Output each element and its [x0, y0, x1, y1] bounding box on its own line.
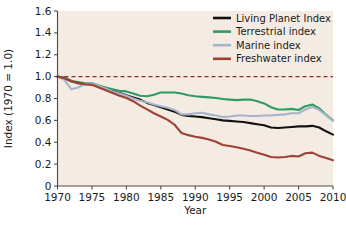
y-tick-label: 0.8 [35, 92, 52, 104]
legend-label-freshwater-index: Freshwater index [236, 53, 322, 64]
legend-label-terrestrial-index: Terrestrial index [235, 26, 316, 37]
x-tick-label: 1970 [44, 191, 71, 203]
x-tick-label: 2010 [320, 191, 346, 203]
y-tick-label: 1.0 [35, 70, 52, 82]
y-tick-label: 0.6 [35, 114, 52, 126]
x-tick-label: 2005 [285, 191, 312, 203]
x-tick-label: 1975 [79, 191, 106, 203]
x-tick-label: 1990 [182, 191, 209, 203]
y-tick-label: 0.2 [35, 158, 52, 170]
chart-canvas: 00.20.40.60.81.01.21.41.6197019751980198… [0, 0, 346, 229]
legend-label-marine-index: Marine index [236, 40, 301, 51]
legend-label-living-planet-index: Living Planet Index [236, 13, 331, 24]
y-tick-label: 1.2 [35, 48, 52, 60]
chart-figure: 00.20.40.60.81.01.21.41.6197019751980198… [0, 0, 346, 229]
y-tick-label: 1.4 [35, 26, 52, 38]
x-tick-label: 2000 [251, 191, 278, 203]
y-axis-title: Index (1970 = 1.0) [2, 49, 14, 148]
x-tick-label: 1985 [147, 191, 174, 203]
x-axis-title: Year [183, 204, 207, 216]
plot-background [58, 11, 334, 186]
x-tick-label: 1980 [113, 191, 140, 203]
x-tick-label: 1995 [216, 191, 243, 203]
y-tick-label: 1.6 [35, 5, 52, 17]
y-tick-label: 0.4 [35, 136, 52, 148]
